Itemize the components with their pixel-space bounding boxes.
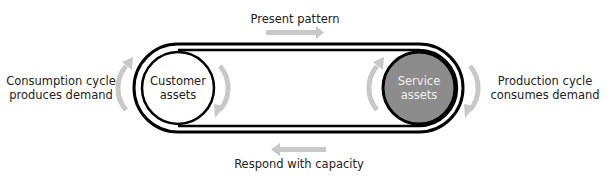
customer-label-line-2: assets — [143, 88, 213, 102]
right-label-line-2: consumes demand — [488, 88, 602, 102]
top-label: Present pattern — [240, 12, 350, 26]
bottom-label: Respond with capacity — [226, 157, 372, 171]
customer-label-line-1: Customer — [143, 74, 213, 88]
arrow-right-icon — [266, 26, 324, 39]
service-assets-label: Service assets — [384, 74, 454, 102]
curved-arrow-down-icon — [214, 66, 228, 118]
left-label: Consumption cycle produces demand — [6, 74, 116, 102]
left-label-line-2: produces demand — [6, 88, 116, 102]
curved-arrow-up-icon — [118, 57, 133, 110]
service-label-line-1: Service — [384, 74, 454, 88]
right-label: Production cycle consumes demand — [488, 74, 602, 102]
service-label-line-2: assets — [384, 88, 454, 102]
arrow-left-icon — [271, 143, 326, 156]
curved-arrow-up-icon — [369, 57, 384, 110]
right-label-line-1: Production cycle — [488, 74, 602, 88]
customer-assets-label: Customer assets — [143, 74, 213, 102]
left-label-line-1: Consumption cycle — [6, 74, 116, 88]
curved-arrow-down-icon — [464, 66, 478, 118]
